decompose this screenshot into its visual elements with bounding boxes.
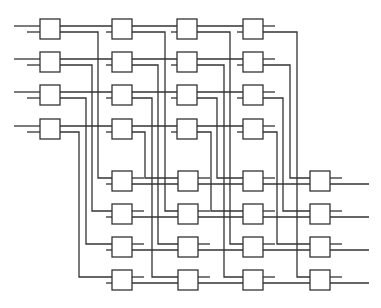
bottom-switch-box <box>112 204 132 224</box>
interconnect-wire <box>197 32 243 244</box>
top-switch-box <box>40 119 60 139</box>
interconnect-wire <box>197 98 243 178</box>
bottom-switch-box <box>243 204 263 224</box>
top-switch-box <box>243 19 263 39</box>
interconnect-wire <box>197 65 243 277</box>
top-switch-box <box>243 85 263 105</box>
bottom-switch-box <box>310 270 330 290</box>
bottom-switch-box <box>310 237 330 257</box>
top-switch-box <box>112 119 132 139</box>
top-switch-box <box>177 52 197 72</box>
top-switch-box <box>112 19 132 39</box>
bottom-switch-box <box>310 204 330 224</box>
bottom-switch-box <box>112 171 132 191</box>
bottom-switch-box <box>178 171 198 191</box>
top-switch-box <box>177 19 197 39</box>
network-svg <box>0 0 381 308</box>
bottom-switch-box <box>178 237 198 257</box>
bottom-switch-box <box>310 171 330 191</box>
bottom-switch-box <box>243 237 263 257</box>
top-switch-box <box>112 52 132 72</box>
interconnect-wire <box>197 132 243 211</box>
interconnect-wire <box>263 65 310 178</box>
bottom-switch-box <box>243 171 263 191</box>
bottom-switch-box <box>112 270 132 290</box>
top-switch-box <box>243 52 263 72</box>
bottom-switch-box <box>178 270 198 290</box>
top-switch-box <box>40 85 60 105</box>
top-switch-box <box>40 19 60 39</box>
top-switch-box <box>177 119 197 139</box>
interconnect-wire <box>263 132 310 244</box>
top-switch-box <box>40 52 60 72</box>
bottom-switch-box <box>112 237 132 257</box>
top-switch-box <box>243 119 263 139</box>
interconnect-wire <box>263 98 310 211</box>
switching-network-diagram <box>0 0 381 308</box>
top-switch-box <box>112 85 132 105</box>
top-switch-box <box>177 85 197 105</box>
bottom-switch-box <box>178 204 198 224</box>
interconnect-wire <box>263 32 310 277</box>
interconnect-wire <box>132 132 178 178</box>
interconnect-wire <box>60 98 112 244</box>
bottom-switch-box <box>243 270 263 290</box>
